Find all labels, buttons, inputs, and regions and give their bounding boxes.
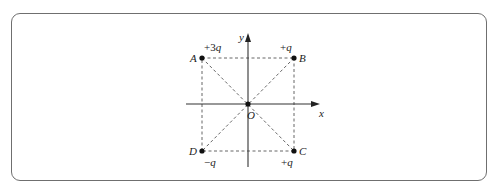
point-D-label: D: [188, 145, 197, 157]
charge-square-diagram: x y O A +3q B +q C +q D −q: [0, 0, 498, 195]
point-D: D −q: [188, 145, 216, 168]
point-C-label: C: [299, 145, 307, 157]
point-B-charge: +q: [280, 41, 292, 53]
origin-point: [245, 101, 250, 106]
point-B: B +q: [280, 41, 306, 64]
y-axis: [245, 33, 251, 167]
point-A-charge: +3q: [204, 41, 222, 53]
y-axis-arrow-icon: [245, 33, 251, 42]
y-axis-label: y: [238, 31, 244, 43]
origin-label: O: [247, 109, 255, 121]
point-B-label: B: [299, 52, 306, 64]
point-C-charge: +q: [281, 156, 293, 168]
x-axis: [186, 101, 320, 107]
point-C: C +q: [281, 145, 307, 168]
point-A: A +3q: [189, 41, 222, 64]
x-axis-label: x: [318, 107, 324, 119]
point-D-charge: −q: [204, 156, 216, 168]
point-A-label: A: [189, 52, 197, 64]
